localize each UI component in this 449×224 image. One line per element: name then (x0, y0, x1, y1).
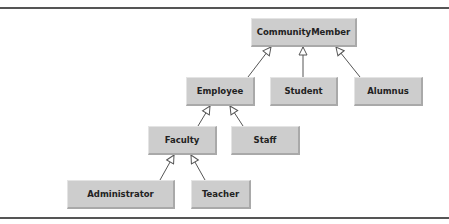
node-communitymember: CommunityMember (251, 18, 357, 47)
node-faculty: Faculty (148, 126, 217, 155)
edge-administrator-faculty (160, 155, 174, 180)
edge-employee-communitymember (248, 47, 271, 77)
edge-teacher-faculty (191, 155, 205, 180)
edge-staff-employee (230, 106, 243, 126)
node-staff: Staff (231, 126, 300, 155)
node-alumnus: Alumnus (354, 77, 423, 106)
edge-alumnus-communitymember (336, 47, 360, 77)
node-teacher: Teacher (191, 180, 251, 209)
edge-faculty-employee (198, 106, 210, 126)
node-administrator: Administrator (67, 180, 175, 209)
node-employee: Employee (186, 77, 255, 106)
node-student: Student (270, 77, 338, 106)
